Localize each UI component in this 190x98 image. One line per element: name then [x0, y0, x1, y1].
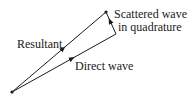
direct-wave-label: Direct wave: [75, 59, 133, 73]
origin-point: [10, 90, 13, 93]
scattered-wave-label-line2: in quadrature: [118, 20, 182, 34]
resultant-label: Resultant: [17, 37, 63, 51]
resultant-vector: [12, 12, 106, 92]
resultant-tip-point: [104, 10, 107, 13]
scattered-wave-label-line1: Scattered wave: [114, 7, 187, 21]
phasor-diagram: Resultant Direct wave Scattered wave in …: [0, 0, 190, 98]
